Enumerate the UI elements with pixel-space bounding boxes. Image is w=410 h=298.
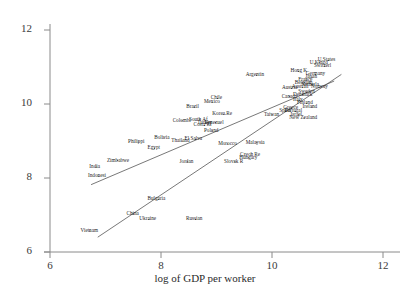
point-label: Zimbabwe (107, 158, 129, 163)
point-label: China (127, 211, 139, 216)
x-tick-label: 10 (257, 259, 287, 271)
point-label: Taiwan (264, 112, 279, 117)
y-tick-label: 6 (6, 244, 32, 256)
chart-canvas: 681012 681012 VietnamUkraineChinaRussian… (0, 0, 410, 298)
point-label: Vietnam (81, 228, 99, 233)
point-label: Ukraine (139, 216, 156, 221)
point-label: Chile (211, 95, 222, 100)
point-label: Russian (186, 216, 202, 221)
point-label: Brazil (186, 104, 199, 109)
y-tick-marks (44, 30, 50, 252)
x-axis-title: log of GDP per worker (0, 272, 410, 284)
point-label: Hungary (239, 155, 257, 160)
point-label: Morocco (218, 141, 237, 146)
chart-svg (0, 0, 410, 298)
x-tick-label: 12 (368, 259, 398, 271)
point-label: El Salva (185, 136, 202, 141)
point-label: Greece (283, 105, 298, 110)
axes (44, 24, 400, 252)
point-label: India (89, 164, 100, 169)
point-label: Germany (306, 71, 325, 76)
y-tick-label: 10 (6, 96, 32, 108)
point-label: Indonesi (88, 173, 106, 178)
point-label: Poland (204, 128, 218, 133)
y-tick-label: 8 (6, 170, 32, 182)
x-tick-label: 8 (146, 259, 176, 271)
point-label: Bolivia (154, 135, 169, 140)
point-label: Jordan (180, 159, 194, 164)
point-label: Venezuel (205, 120, 224, 125)
x-tick-label: 6 (35, 259, 65, 271)
point-label: Argentin (246, 72, 264, 77)
y-tick-label: 12 (6, 22, 32, 34)
point-label: Hong K (291, 68, 308, 73)
point-label: Egypt (148, 145, 160, 150)
point-label: U.States (318, 57, 335, 62)
point-label: Netherla (301, 82, 319, 87)
point-label: Korea.Re (212, 111, 232, 116)
point-label: Bulgaria (147, 196, 165, 201)
point-label: Sweden (298, 89, 314, 94)
point-label: Malaysia (246, 140, 265, 145)
x-tick-marks (50, 252, 383, 258)
point-label: Philippi (128, 139, 144, 144)
